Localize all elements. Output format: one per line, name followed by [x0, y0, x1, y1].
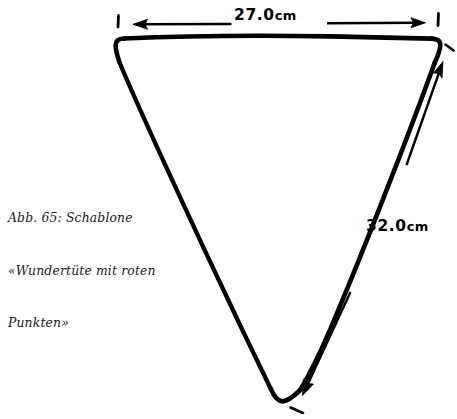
width-dimension-value: 27.0 — [234, 6, 275, 24]
side-dimension-unit: cm — [407, 219, 429, 234]
tick-mark-left — [118, 16, 119, 28]
width-dimension-unit: cm — [275, 8, 297, 23]
triangle-bottom-vertex — [271, 389, 301, 402]
figure-container: 27.0cm 32.0cm Abb. 65: Schablone «Wunder… — [0, 0, 457, 419]
width-dimension-label: 27.0cm — [234, 8, 297, 24]
triangle-top-edge — [124, 36, 432, 39]
triangle-corner-top-left — [116, 39, 124, 63]
caption-line-2: «Wundertüte mit roten — [8, 262, 158, 280]
width-arrow-right-shaft — [327, 23, 417, 24]
figure-caption: Abb. 65: Schablone «Wundertüte mit roten… — [8, 174, 158, 367]
side-arrow-lower-shaft — [307, 292, 351, 387]
side-dimension-value: 32.0 — [366, 217, 407, 235]
caption-line-1: Abb. 65: Schablone — [8, 209, 158, 227]
dash-top-right — [446, 45, 454, 51]
side-dimension-label: 32.0cm — [366, 219, 429, 235]
width-arrow-left-head — [133, 19, 148, 29]
dash-bottom-vertex — [291, 408, 304, 414]
triangle-corner-top-right — [432, 39, 440, 64]
tick-mark-right — [438, 14, 439, 26]
width-arrow-right-head — [411, 18, 426, 28]
side-arrow-upper-shaft — [407, 70, 441, 165]
caption-line-3: Punkten» — [8, 314, 158, 332]
